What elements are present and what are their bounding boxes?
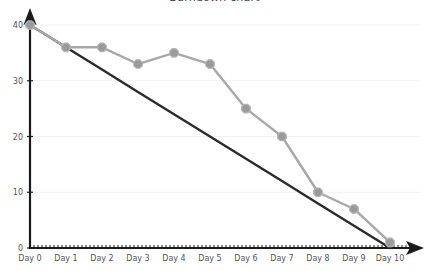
data-point-marker [350, 205, 359, 213]
data-point-marker [206, 60, 215, 68]
x-tick-labels: Day 0Day 1Day 2Day 3Day 4Day 5Day 6Day 7… [18, 254, 404, 263]
data-point-marker [26, 21, 35, 30]
y-axis: 010203040 [13, 8, 37, 253]
y-tick-label: 10 [13, 188, 23, 197]
series-actual-line [26, 21, 395, 247]
data-point-marker [314, 188, 323, 197]
y-tick-label: 40 [13, 21, 23, 30]
x-tick-label: Day 0 [18, 254, 41, 263]
x-tick-label: Day 5 [198, 254, 221, 263]
x-tick-label: Day 7 [270, 254, 293, 263]
x-tick-label: Day 4 [162, 254, 185, 263]
x-tick-label: Day 10 [376, 254, 405, 263]
y-tick-label: 0 [18, 244, 23, 253]
burndown-chart: Burndown chart 010203040 Day 0Day 1Day 2… [0, 0, 429, 271]
x-tick-label: Day 3 [126, 254, 149, 263]
data-point-marker [242, 104, 251, 112]
data-point-marker [170, 49, 179, 57]
data-point-marker [278, 132, 287, 141]
chart-canvas: 010203040 Day 0Day 1Day 2Day 3Day 4Day 5… [0, 0, 429, 271]
x-axis: Day 0Day 1Day 2Day 3Day 4Day 5Day 6Day 7… [18, 241, 424, 263]
gridlines-group [30, 25, 420, 192]
y-tick-labels: 010203040 [13, 21, 23, 253]
data-point-marker [134, 60, 143, 68]
x-tick-label: Day 1 [54, 254, 77, 263]
data-point-marker [62, 43, 71, 52]
x-tick-label: Day 6 [234, 254, 257, 263]
x-tick-marks [34, 245, 406, 247]
data-point-marker [386, 238, 395, 246]
x-tick-label: Day 8 [306, 254, 329, 263]
x-tick-label: Day 2 [90, 254, 113, 263]
data-point-marker [98, 43, 107, 52]
x-tick-label: Day 9 [342, 254, 365, 263]
y-tick-label: 30 [13, 77, 23, 86]
actual-data-markers [26, 21, 395, 247]
y-tick-label: 20 [13, 133, 23, 142]
